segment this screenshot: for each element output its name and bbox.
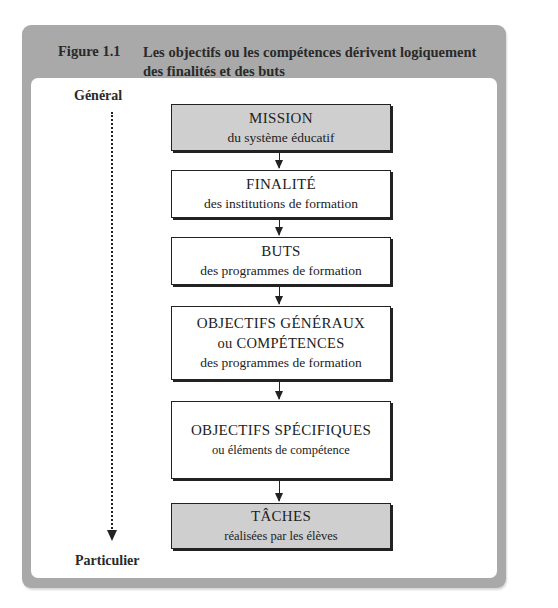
box-finalite: FINALITÉ des institutions de formation [171,170,391,218]
box-subtitle: ou éléments de compétence [172,440,390,460]
arrow-down-icon [279,382,280,399]
box-title: MISSION [172,108,390,128]
box-title: FINALITÉ [172,174,390,194]
arrow-down-icon [279,481,280,501]
box-title: BUTS [172,241,390,261]
generality-axis-line [111,112,113,532]
box-subtitle: des programmes de formation [172,353,390,373]
box-buts: BUTS des programmes de formation [171,237,391,285]
axis-label-general: Général [74,88,122,104]
box-title: TÂCHES [172,506,390,526]
box-objectifs-generaux: OBJECTIFS GÉNÉRAUX ou COMPÉTENCES des pr… [171,306,391,380]
box-subtitle: réalisées par les élèves [172,526,390,546]
box-taches: TÂCHES réalisées par les élèves [171,503,391,549]
box-title: OBJECTIFS GÉNÉRAUX [172,313,390,333]
box-subtitle: des programmes de formation [172,261,390,281]
box-objectifs-specifiques: OBJECTIFS SPÉCIFIQUES ou éléments de com… [171,401,391,479]
figure-title: Les objectifs ou les compétences dériven… [143,43,483,81]
arrow-down-icon [279,153,280,168]
box-mission: MISSION du système éducatif [171,104,391,151]
box-title: OBJECTIFS SPÉCIFIQUES [172,420,390,440]
box-subtitle: des institutions de formation [172,194,390,214]
figure-label: Figure 1.1 [58,43,121,60]
arrow-down-icon [279,220,280,235]
arrow-down-icon [107,530,117,541]
arrow-down-icon [279,287,280,304]
axis-label-particular: Particulier [75,553,140,569]
box-subtitle: ou COMPÉTENCES [172,333,390,353]
box-subtitle: du système éducatif [172,128,390,148]
